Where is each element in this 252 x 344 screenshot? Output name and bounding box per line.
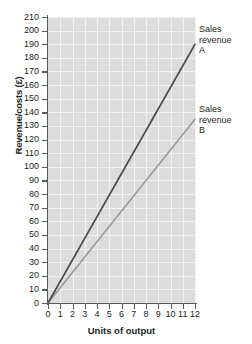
y-axis-tick: [42, 44, 47, 45]
y-axis-tick-label: 50: [13, 230, 39, 239]
y-axis-tick-label: 60: [13, 217, 39, 226]
vertical-gridline: [195, 17, 196, 303]
y-axis-tick: [42, 235, 47, 236]
y-axis-tick: [42, 71, 47, 72]
line-sales-revenue-a: [48, 44, 195, 303]
y-axis-tick-label: 120: [13, 135, 39, 144]
y-axis-tick-label: 30: [13, 258, 39, 267]
y-axis-tick-label: 150: [13, 94, 39, 103]
y-axis-tick-label: 80: [13, 190, 39, 199]
y-axis-tick-label: 10: [13, 285, 39, 294]
y-axis-tick-label: 200: [13, 26, 39, 35]
y-axis-tick: [42, 262, 47, 263]
y-axis-tick-label: 180: [13, 53, 39, 62]
y-axis-tick: [42, 180, 47, 181]
y-axis-tick-label: 210: [13, 13, 39, 22]
y-axis-tick-label: 100: [13, 162, 39, 171]
y-axis-tick: [42, 58, 47, 59]
x-axis-tick-label: 12: [187, 310, 203, 319]
line-sales-revenue-b: [48, 119, 195, 303]
y-axis-tick: [42, 167, 47, 168]
x-axis-title: Units of output: [48, 325, 195, 336]
y-axis-tick-label: 110: [13, 149, 39, 158]
y-axis-tick: [42, 140, 47, 141]
y-axis-tick-label: 130: [13, 121, 39, 130]
y-axis-tick: [42, 17, 47, 18]
y-axis-tick-label: 70: [13, 203, 39, 212]
y-axis-tick: [42, 153, 47, 154]
y-axis-tick-label: 170: [13, 67, 39, 76]
y-axis-tick: [42, 303, 47, 304]
y-axis-tick: [42, 194, 47, 195]
y-axis-tick: [42, 31, 47, 32]
y-axis-tick-label: 190: [13, 40, 39, 49]
y-axis-tick-label: 160: [13, 81, 39, 90]
y-axis-tick: [42, 126, 47, 127]
y-axis-tick: [42, 99, 47, 100]
chart-figure: Revenue/costs (£) Units of output Sales …: [0, 0, 252, 344]
y-axis-tick-label: 0: [13, 299, 39, 308]
annotation-sales-revenue-b: Sales revenue B: [199, 104, 232, 136]
series-lines: [48, 17, 195, 303]
y-axis-tick-label: 140: [13, 108, 39, 117]
y-axis-tick: [42, 249, 47, 250]
y-axis-tick: [42, 85, 47, 86]
annotation-sales-revenue-a: Sales revenue A: [199, 24, 232, 56]
y-axis-tick-label: 20: [13, 271, 39, 280]
y-axis-tick: [42, 221, 47, 222]
y-axis-tick-label: 90: [13, 176, 39, 185]
y-axis-tick: [42, 289, 47, 290]
y-axis-tick: [42, 208, 47, 209]
y-axis-tick: [42, 112, 47, 113]
y-axis-tick-label: 40: [13, 244, 39, 253]
y-axis-tick: [42, 276, 47, 277]
